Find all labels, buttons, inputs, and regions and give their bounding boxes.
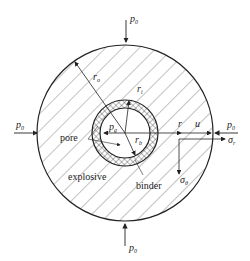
explosive-label: explosive [68, 171, 107, 182]
p0-top-label: p0 [129, 13, 138, 25]
pore-collapse-diagram: p0 p0 p0 p0 ro ri pg rb r u σr σθ pore e… [0, 0, 250, 261]
r-label: r [178, 118, 182, 129]
p0-bottom-label: p0 [128, 242, 137, 254]
pore-label: pore [60, 132, 78, 143]
binder-label: binder [136, 180, 162, 191]
p0-left-label: p0 [15, 119, 24, 131]
p0-right-label: p0 [226, 119, 235, 131]
sigma-r-label: σr [228, 134, 236, 146]
u-label: u [195, 118, 200, 129]
